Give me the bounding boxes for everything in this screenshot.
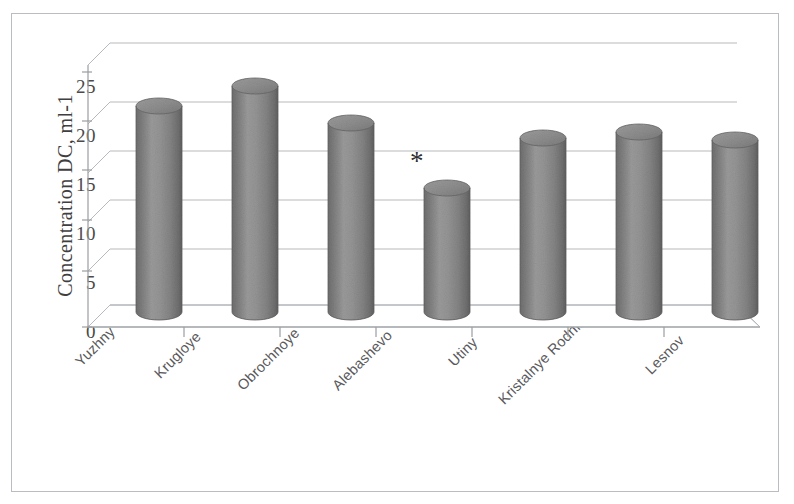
bar-yuzhny[interactable] bbox=[136, 98, 182, 320]
bar-obrochnoye[interactable] bbox=[328, 115, 374, 320]
bar-krugloye[interactable] bbox=[232, 78, 278, 320]
x-axis bbox=[88, 327, 760, 337]
plot-area bbox=[0, 0, 794, 504]
y-axis bbox=[82, 65, 92, 327]
figure-canvas: Concentration DC, ml-1 25 20 15 10 5 0 *… bbox=[0, 0, 794, 504]
bar-kristalnye-rodniki[interactable] bbox=[616, 124, 662, 320]
bar-lesnov[interactable] bbox=[712, 132, 758, 320]
bar-alebashevo[interactable] bbox=[424, 180, 470, 320]
bar-utiny[interactable] bbox=[520, 130, 566, 320]
bars bbox=[136, 78, 758, 320]
